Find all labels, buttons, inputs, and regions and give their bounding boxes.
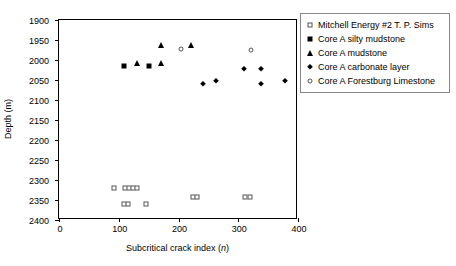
legend-item-label: Core A silty mudstone: [318, 35, 405, 44]
y-axis-tick-label: 2000: [29, 57, 49, 66]
scatter-chart-figure: Depth (m) 190019502000205021002150220022…: [0, 0, 456, 266]
data-point-open-square: [248, 195, 253, 200]
data-point-open-square: [195, 195, 200, 200]
x-axis-tick-label: 400: [291, 225, 306, 234]
y-axis-tick-label: 2100: [29, 97, 49, 106]
x-axis-title-plain: Subcritical crack index (: [126, 243, 221, 253]
y-axis-tick-label: 2150: [29, 117, 49, 126]
y-axis-tick-label: 2250: [29, 157, 49, 166]
y-axis-title: Depth (m): [3, 99, 13, 139]
chart-legend: Mitchell Energy #2 T. P. SimsCore A silt…: [300, 13, 450, 93]
plot-inner: 1900195020002050210021502200225023002350…: [59, 20, 296, 218]
legend-marker-filled-diamond-icon: [305, 62, 315, 72]
data-point-filled-diamond: [258, 66, 264, 72]
legend-marker-open-square-icon: [305, 20, 315, 30]
legend-item-label: Core A mudstone: [318, 49, 387, 58]
y-axis-tick-label: 2350: [29, 197, 49, 206]
y-axis-tick: 2300: [55, 180, 59, 181]
data-point-filled-diamond: [200, 81, 206, 87]
data-point-filled-diamond: [241, 66, 247, 72]
legend-marker-glyph: [308, 37, 313, 42]
y-axis-tick: 1900: [55, 20, 59, 21]
x-axis-tick: 400: [298, 218, 299, 222]
x-axis-title-tail: ): [226, 243, 229, 253]
y-axis-tick-label: 2300: [29, 177, 49, 186]
y-axis-tick: 1950: [55, 40, 59, 41]
x-axis-tick: 0: [59, 218, 60, 222]
y-axis-tick-label: 2050: [29, 77, 49, 86]
legend-item[interactable]: Core A Forestburg Limestone: [305, 74, 444, 88]
plot-area: 1900195020002050210021502200225023002350…: [58, 19, 297, 219]
data-point-filled-triangle: [158, 60, 164, 66]
legend-marker-open-circle-icon: [305, 76, 315, 86]
y-axis-tick-label: 2400: [29, 217, 49, 226]
y-axis-tick-label: 1950: [29, 37, 49, 46]
legend-item-label: Core A carbonate layer: [318, 63, 410, 72]
data-point-open-square: [111, 186, 116, 191]
legend-item-label: Mitchell Energy #2 T. P. Sims: [318, 21, 434, 30]
x-axis-tick: 200: [179, 218, 180, 222]
legend-marker-filled-square-icon: [305, 34, 315, 44]
y-axis-tick: 2150: [55, 120, 59, 121]
x-axis-tick-label: 0: [57, 225, 62, 234]
legend-item[interactable]: Core A mudstone: [305, 46, 444, 60]
legend-item[interactable]: Mitchell Energy #2 T. P. Sims: [305, 18, 444, 32]
y-axis-tick: 2350: [55, 200, 59, 201]
x-axis-tick-label: 100: [112, 225, 127, 234]
data-point-open-square: [135, 186, 140, 191]
data-point-filled-triangle: [134, 60, 140, 66]
legend-item[interactable]: Core A silty mudstone: [305, 32, 444, 46]
x-axis-title: Subcritical crack index (n): [58, 243, 297, 253]
legend-marker-glyph: [307, 50, 313, 56]
y-axis-tick: 2100: [55, 100, 59, 101]
y-axis-tick: 2000: [55, 60, 59, 61]
legend-marker-glyph: [308, 79, 313, 84]
data-point-filled-diamond: [282, 78, 288, 84]
data-point-filled-square: [121, 64, 126, 69]
y-axis-tick-label: 2200: [29, 137, 49, 146]
legend-marker-glyph: [308, 23, 313, 28]
data-point-filled-diamond: [213, 78, 219, 84]
data-point-open-circle: [178, 47, 183, 52]
data-point-filled-triangle: [188, 42, 194, 48]
legend-marker-glyph: [307, 64, 313, 70]
data-point-filled-triangle: [158, 42, 164, 48]
legend-item-label: Core A Forestburg Limestone: [318, 77, 435, 86]
x-axis-tick: 300: [238, 218, 239, 222]
data-point-filled-diamond: [258, 81, 264, 87]
data-point-open-circle: [249, 48, 254, 53]
data-point-open-square: [242, 195, 247, 200]
data-point-filled-square: [146, 64, 151, 69]
y-axis-tick-label: 1900: [29, 17, 49, 26]
x-axis-tick: 100: [119, 218, 120, 222]
data-point-open-square: [144, 202, 149, 207]
y-axis-tick: 2050: [55, 80, 59, 81]
data-point-open-square: [126, 202, 131, 207]
y-axis-tick: 2200: [55, 140, 59, 141]
x-axis-tick-label: 300: [232, 225, 247, 234]
x-axis-tick-label: 200: [172, 225, 187, 234]
legend-item[interactable]: Core A carbonate layer: [305, 60, 444, 74]
legend-marker-filled-triangle-icon: [305, 48, 315, 58]
y-axis-tick: 2250: [55, 160, 59, 161]
